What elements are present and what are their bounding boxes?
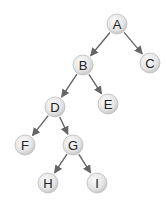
tree-node-b: B bbox=[73, 55, 93, 75]
node-label: H bbox=[43, 176, 52, 191]
tree-node-g: G bbox=[63, 135, 83, 155]
node-label: F bbox=[21, 138, 29, 153]
node-label: D bbox=[50, 100, 59, 115]
edge-d-f bbox=[32, 116, 48, 136]
edge-g-h bbox=[55, 154, 67, 173]
edge-g-i bbox=[79, 154, 91, 173]
node-label: G bbox=[68, 138, 78, 153]
edge-a-c bbox=[124, 32, 142, 53]
node-label: E bbox=[104, 97, 113, 112]
edge-d-g bbox=[60, 117, 68, 134]
tree-diagram: ABCDEFGHI bbox=[0, 0, 167, 209]
tree-node-e: E bbox=[98, 94, 118, 114]
edge-a-b bbox=[91, 32, 110, 55]
node-label: A bbox=[113, 17, 122, 32]
edge-b-d bbox=[62, 74, 77, 97]
tree-node-f: F bbox=[15, 135, 35, 155]
node-label: C bbox=[145, 56, 154, 71]
tree-node-c: C bbox=[140, 53, 160, 73]
node-label: I bbox=[95, 176, 99, 191]
edge-b-e bbox=[89, 74, 102, 94]
tree-node-h: H bbox=[38, 173, 58, 193]
tree-node-a: A bbox=[107, 14, 127, 34]
tree-node-d: D bbox=[45, 97, 65, 117]
tree-node-i: I bbox=[87, 173, 107, 193]
node-label: B bbox=[79, 58, 88, 73]
nodes-group: ABCDEFGHI bbox=[15, 14, 160, 193]
